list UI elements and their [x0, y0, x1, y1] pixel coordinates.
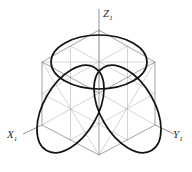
figure-canvas: Z1 X1 Y1: [0, 0, 192, 172]
figure-background: [0, 0, 192, 172]
x-axis-label-subscript: 1: [14, 135, 18, 143]
y-axis-label-subscript: 1: [179, 135, 183, 143]
isometric-figure: Z1 X1 Y1: [0, 0, 192, 172]
z-axis-label-subscript: 1: [109, 14, 113, 22]
